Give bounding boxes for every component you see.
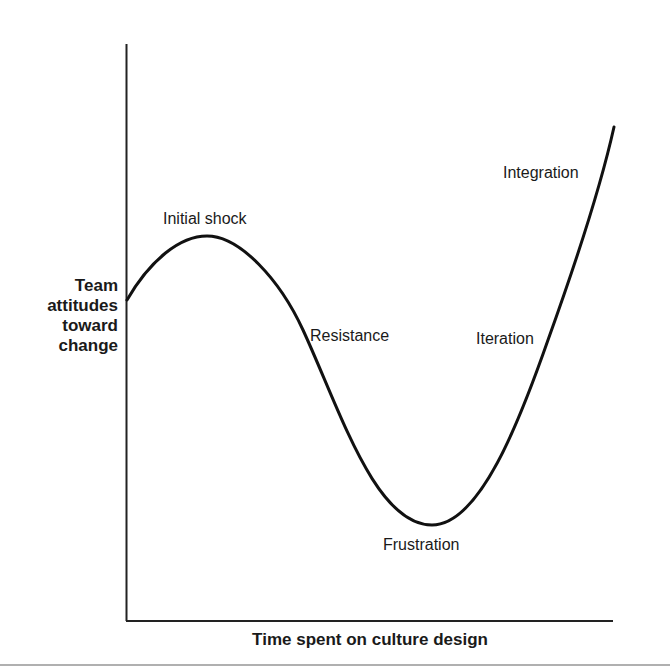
attitude-curve [127,127,614,525]
y-axis-title: Team attitudes toward change [47,276,118,356]
y-axis-title-line-3: toward [47,316,118,336]
annotation-frustration: Frustration [383,537,459,553]
annotation-integration: Integration [503,165,579,181]
bottom-divider [0,664,670,666]
annotation-iteration: Iteration [476,331,534,347]
annotation-initial-shock: Initial shock [163,211,247,227]
x-axis-title: Time spent on culture design [126,630,614,650]
annotation-resistance: Resistance [310,328,389,344]
y-axis-title-line-4: change [47,336,118,356]
y-axis-title-line-2: attitudes [47,296,118,316]
y-axis-title-line-1: Team [47,276,118,296]
